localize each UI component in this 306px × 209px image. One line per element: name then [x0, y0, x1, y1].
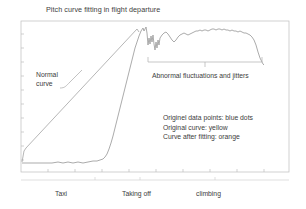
chart-title: Pitch curve fitting in flight departure: [46, 5, 160, 14]
annotation-normal-curve: Normal curve: [36, 70, 58, 89]
phase-label-taking-off: Taking off: [122, 190, 151, 197]
abnormal-region-bracket: [148, 57, 262, 67]
chart-figure: Pitch curve fitting in flight departure: [0, 0, 306, 209]
x-axis-baseline: [21, 177, 289, 180]
annotation-normal-curve-line2: curve: [36, 79, 58, 88]
y-axis-ticks: [21, 34, 24, 160]
plot-canvas: [0, 0, 306, 209]
legend-item-fitted-curve: Curve after fitting: orange: [163, 132, 253, 142]
legend: Originel data points: blue dots Original…: [163, 113, 253, 142]
phase-label-climbing: climbing: [196, 190, 221, 197]
series-original-curve: [22, 29, 139, 162]
annotation-normal-curve-line1: Normal: [36, 70, 58, 79]
legend-item-original-curve: Original curve: yellow: [163, 123, 253, 133]
series-fitted-curve: [22, 27, 264, 163]
plot-frame: [21, 21, 289, 172]
x-axis-ticks: [48, 169, 264, 172]
legend-item-data-points: Originel data points: blue dots: [163, 113, 253, 123]
phase-label-taxi: Taxi: [55, 190, 67, 197]
annotation-abnormal-fluctuations: Abnormal fluctuations and jitters: [152, 71, 249, 80]
normal-curve-leader-line: [60, 70, 82, 88]
